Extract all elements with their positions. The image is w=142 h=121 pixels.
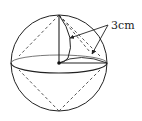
center-point [57,61,61,65]
meridian-arc [59,15,71,63]
radius-label: 3cm [111,19,135,32]
sphere-diagram: 3cm [0,0,142,121]
equator-arc [59,58,107,64]
